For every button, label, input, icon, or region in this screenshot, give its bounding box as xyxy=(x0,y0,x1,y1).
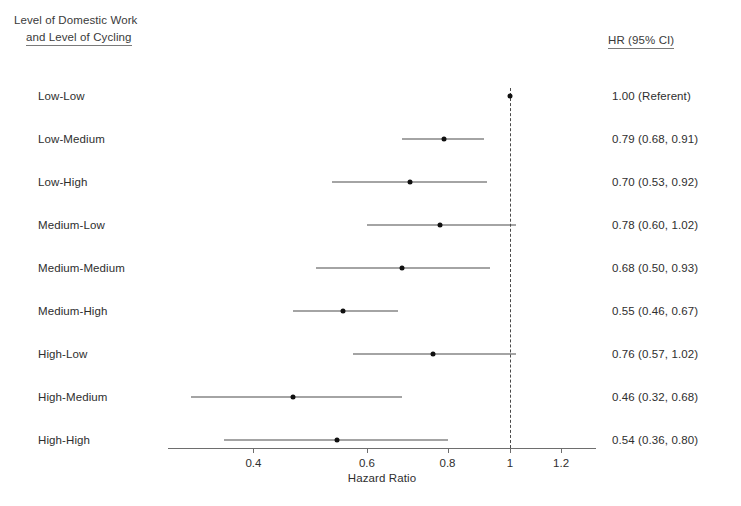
x-axis-tick-label: 0.4 xyxy=(245,457,261,469)
x-axis-tick-label: 1 xyxy=(507,457,513,469)
column-header-groups-line2: and Level of Cycling xyxy=(26,31,132,46)
point-estimate-marker xyxy=(441,137,446,142)
confidence-interval-bar xyxy=(293,311,398,312)
x-axis-tick xyxy=(510,448,511,453)
x-axis-tick xyxy=(561,448,562,453)
x-axis-tick xyxy=(253,448,254,453)
row-label: Low-Medium xyxy=(38,133,105,145)
row-label: Medium-High xyxy=(38,305,107,317)
x-axis-tick-label: 0.6 xyxy=(359,457,375,469)
column-header-hr: HR (95% CI) xyxy=(608,34,674,49)
row-hr-value: 0.79 (0.68, 0.91) xyxy=(612,133,698,145)
row-hr-value: 0.76 (0.57, 1.02) xyxy=(612,348,698,360)
row-hr-value: 1.00 (Referent) xyxy=(612,90,691,102)
point-estimate-marker xyxy=(290,395,295,400)
point-estimate-marker xyxy=(340,309,345,314)
row-hr-value: 0.68 (0.50, 0.93) xyxy=(612,262,698,274)
row-hr-value: 0.78 (0.60, 1.02) xyxy=(612,219,698,231)
x-axis-tick-label: 0.8 xyxy=(440,457,456,469)
point-estimate-marker xyxy=(408,180,413,185)
forest-plot: Level of Domestic Work and Level of Cycl… xyxy=(0,0,741,506)
row-label: High-Medium xyxy=(38,391,107,403)
row-label: High-Low xyxy=(38,348,87,360)
x-axis-tick xyxy=(367,448,368,453)
row-label: High-High xyxy=(38,434,90,446)
row-hr-value: 0.70 (0.53, 0.92) xyxy=(612,176,698,188)
point-estimate-marker xyxy=(438,223,443,228)
point-estimate-marker xyxy=(335,438,340,443)
row-hr-value: 0.46 (0.32, 0.68) xyxy=(612,391,698,403)
row-hr-value: 0.54 (0.36, 0.80) xyxy=(612,434,698,446)
x-axis-tick-label: 1.2 xyxy=(553,457,569,469)
row-label: Medium-Low xyxy=(38,219,105,231)
confidence-interval-bar xyxy=(191,397,402,398)
row-label: Low-High xyxy=(38,176,87,188)
x-axis-line xyxy=(168,448,596,449)
point-estimate-marker xyxy=(400,266,405,271)
x-axis-tick xyxy=(448,448,449,453)
x-axis-title: Hazard Ratio xyxy=(348,472,416,484)
column-header-groups-line1: Level of Domestic Work xyxy=(14,14,137,26)
point-estimate-marker xyxy=(431,352,436,357)
reference-line xyxy=(510,88,511,448)
row-hr-value: 0.55 (0.46, 0.67) xyxy=(612,305,698,317)
point-estimate-marker xyxy=(508,94,513,99)
row-label: Low-Low xyxy=(38,90,85,102)
row-label: Medium-Medium xyxy=(38,262,125,274)
